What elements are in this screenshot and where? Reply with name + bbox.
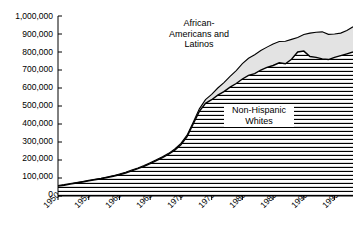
chart-container: 1,000,000 900,000 800,000 700,000 600,00… bbox=[0, 0, 359, 233]
annotation-lower-band: Non-Hispanic Whites bbox=[224, 104, 294, 127]
annotation-upper-line-3: Latinos bbox=[147, 39, 251, 50]
annotation-upper-line-1: African- bbox=[147, 18, 251, 29]
annotation-upper-line-2: Americans and bbox=[147, 29, 251, 40]
annotation-lower-line-2: Whites bbox=[227, 116, 291, 127]
x-axis-ticks bbox=[58, 196, 335, 200]
annotation-lower-line-1: Non-Hispanic bbox=[227, 105, 291, 116]
y-axis-ticks bbox=[58, 16, 62, 196]
series-area-non-hispanic-whites bbox=[58, 51, 353, 196]
annotation-upper-band: African- Americans and Latinos bbox=[147, 18, 251, 50]
